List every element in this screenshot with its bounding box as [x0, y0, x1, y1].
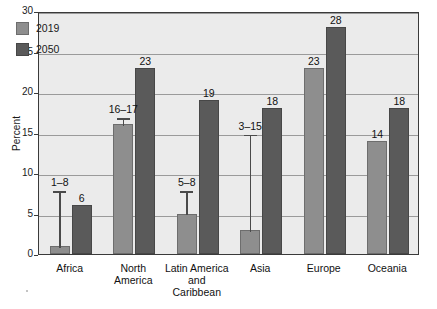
gridline	[39, 54, 418, 55]
y-axis-tick-10: 10	[7, 168, 33, 178]
legend-item-2019: 2019	[16, 22, 59, 35]
legend-swatch-2050	[16, 43, 29, 56]
value-label-2050-latin-america-and-caribbean: 19	[183, 88, 235, 99]
error-bar-cap	[180, 191, 193, 193]
legend-item-2050: 2050	[16, 43, 59, 56]
value-label-2019-africa: 1–8	[34, 177, 86, 188]
legend: 2019 2050	[16, 22, 59, 64]
y-axis-tick-0: 0	[7, 249, 33, 259]
bar-2050-north-america	[135, 68, 155, 254]
error-bar-cap	[117, 118, 130, 120]
legend-label-2019: 2019	[36, 23, 59, 34]
bar-2050-africa	[72, 205, 92, 254]
x-label-line: and	[156, 274, 238, 286]
plot-area: 1–8616–17235–8193–151823281418	[38, 12, 419, 255]
bar-2019-asia	[240, 230, 260, 254]
y-axis-tick-30: 30	[7, 6, 33, 16]
value-label-2019-latin-america-and-caribbean: 5–8	[161, 177, 213, 188]
scan-artifact-dot	[26, 290, 28, 292]
x-label-line: Oceania	[347, 262, 429, 274]
value-label-2050-africa: 6	[56, 193, 108, 204]
error-bar-cap	[244, 135, 257, 137]
value-label-2019-oceania: 14	[351, 129, 403, 140]
gridline	[39, 13, 418, 14]
value-label-2050-europe: 28	[310, 15, 362, 26]
y-axis-tick-20: 20	[7, 87, 33, 97]
y-axis-tick-5: 5	[7, 209, 33, 219]
bar-2019-europe	[304, 68, 324, 254]
x-axis-label-oceania: Oceania	[347, 262, 429, 274]
error-bar-line	[186, 191, 188, 215]
value-label-2050-oceania: 18	[373, 96, 425, 107]
error-bar-line	[250, 135, 252, 232]
gridline	[39, 175, 418, 176]
y-axis-tickmark	[34, 255, 38, 256]
value-label-2050-asia: 18	[246, 96, 298, 107]
value-label-2050-north-america: 23	[119, 56, 171, 67]
value-label-2019-europe: 23	[288, 56, 340, 67]
bar-chart: Percent 051015202530 1–8616–17235–8193–1…	[0, 0, 437, 309]
gridline	[39, 216, 418, 217]
bar-2019-latin-america-and-caribbean	[177, 214, 197, 255]
x-label-line: Caribbean	[156, 286, 238, 298]
y-axis-tick-15: 15	[7, 128, 33, 138]
legend-swatch-2019	[16, 22, 29, 35]
bar-2019-north-america	[113, 124, 133, 254]
value-label-2019-north-america: 16–17	[97, 104, 149, 115]
value-label-2019-asia: 3–15	[224, 121, 276, 132]
bar-2019-oceania	[367, 141, 387, 254]
legend-label-2050: 2050	[36, 44, 59, 55]
